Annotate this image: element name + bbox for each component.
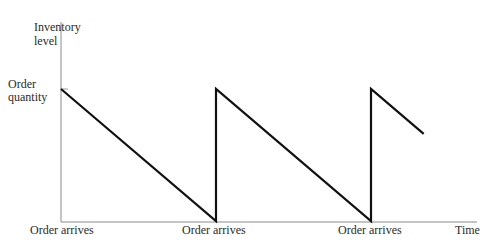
- chart-plot: [0, 0, 498, 247]
- x-axis-label: Time: [455, 224, 480, 237]
- inventory-level-line: [61, 89, 424, 221]
- inventory-sawtooth-chart: Inventory level Order quantity Order arr…: [0, 0, 498, 247]
- y-tick-label-line2: quantity: [8, 91, 47, 104]
- x-tick-label-2: Order arrives: [338, 224, 402, 237]
- y-axis-label-line2: level: [34, 35, 57, 48]
- y-axis-label-line1: Inventory: [34, 21, 81, 34]
- x-tick-label-0: Order arrives: [30, 224, 94, 237]
- x-tick-label-1: Order arrives: [182, 224, 246, 237]
